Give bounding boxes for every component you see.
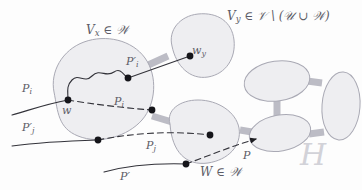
node-w (65, 97, 72, 104)
label-pi-dashed: Pi (114, 96, 124, 109)
connector-e3-e4 (309, 132, 324, 134)
region-ellipse-right (320, 71, 362, 141)
label-vy-region: Vy ∈ 𝒱 \ (𝒰 ∪ 𝒲) (227, 10, 330, 24)
label-vy-membership: ∈ 𝒱 \ (𝒰 ∪ 𝒲) (244, 9, 329, 23)
label-p-prime-mark: ′ (127, 170, 130, 183)
label-vx-membership: ∈ 𝒲 (103, 23, 129, 37)
label-h-watermark: H (300, 140, 326, 170)
node-pj-end (207, 132, 214, 139)
region-w-blob (169, 100, 239, 163)
region-ellipse-upper (242, 57, 313, 106)
label-p-arrow: P (243, 150, 250, 161)
label-pi-dashed-subscript: i (121, 100, 124, 109)
label-wy-subscript: y (201, 49, 205, 58)
label-pj-dashed: Pj (146, 140, 156, 153)
label-p-arrow-symbol: P (243, 149, 250, 162)
label-pi-incoming-subscript: i (29, 87, 32, 96)
label-pi-prime-node: P′i (126, 56, 138, 69)
label-vx-region: Vx ∈ 𝒲 (86, 24, 129, 38)
label-pi-prime-subscript: i (136, 60, 139, 69)
label-h-text: H (300, 137, 326, 172)
label-w-node-symbol: w (62, 104, 71, 117)
label-vy-symbol: V (227, 9, 236, 23)
label-pj-prime-subscript: j (32, 126, 34, 135)
label-wy-node: wy (192, 45, 206, 58)
graph-partition-figure: Vx ∈ 𝒲 Vy ∈ 𝒱 \ (𝒰 ∪ 𝒲) W ∈ 𝒲 H Pi P′j P… (0, 0, 362, 190)
label-wy-symbol: w (192, 44, 201, 57)
label-pi-incoming: Pi (22, 83, 32, 96)
label-w-region: W ∈ 𝒲 (200, 166, 242, 178)
label-vy-subscript: y (236, 14, 241, 24)
label-pj-dashed-subscript: j (153, 144, 155, 153)
node-pj-start (95, 137, 102, 144)
label-vx-symbol: V (86, 23, 95, 37)
node-pi-prime (125, 75, 132, 82)
label-p-prime-incoming: P′ (120, 171, 130, 182)
path-p-prime-incoming (104, 164, 186, 172)
path-pj-prime-incoming (12, 140, 98, 146)
label-vx-subscript: x (95, 28, 100, 38)
node-pi-end (149, 107, 156, 114)
label-w-membership: W ∈ 𝒲 (200, 165, 242, 179)
node-p-prime (183, 161, 190, 168)
label-pj-prime-incoming: P′j (22, 122, 34, 135)
label-w-node: w (62, 105, 71, 116)
